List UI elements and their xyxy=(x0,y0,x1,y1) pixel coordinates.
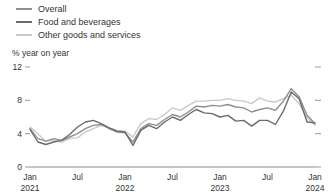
y-tick-label: 4 xyxy=(17,129,22,139)
x-tick-label-month: Jan xyxy=(118,172,132,182)
x-tick-label-month: Jan xyxy=(23,172,37,182)
series-line-overall xyxy=(30,89,315,142)
series-lines xyxy=(30,89,315,146)
y-tick-label: 12 xyxy=(13,62,23,72)
plot-area: 04812 Jan2021JulJan2022JulJan2023JulJan2… xyxy=(0,0,330,195)
x-tick-label-year: 2022 xyxy=(116,183,135,193)
x-tick-label-month: Jan xyxy=(213,172,227,182)
y-axis-right-ticks xyxy=(315,67,321,167)
x-tick-label-month: Jul xyxy=(167,172,178,182)
x-tick-label-month: Jul xyxy=(262,172,273,182)
x-tick-label-year: 2023 xyxy=(211,183,230,193)
x-tick-label-month: Jul xyxy=(72,172,83,182)
x-axis-ticks: Jan2021JulJan2022JulJan2023JulJan2024 xyxy=(21,172,325,193)
x-tick-label-year: 2021 xyxy=(21,183,40,193)
x-tick-label-month: Jan xyxy=(308,172,322,182)
line-chart-svg: 04812 Jan2021JulJan2022JulJan2023JulJan2… xyxy=(0,0,330,195)
x-tick-label-year: 2024 xyxy=(306,183,325,193)
y-axis-ticks: 04812 xyxy=(13,62,30,172)
y-tick-label: 0 xyxy=(17,162,22,172)
y-tick-label: 8 xyxy=(17,95,22,105)
chart-page: Overall Food and beverages Other goods a… xyxy=(0,0,330,195)
series-line-food-and-beverages xyxy=(30,92,315,145)
